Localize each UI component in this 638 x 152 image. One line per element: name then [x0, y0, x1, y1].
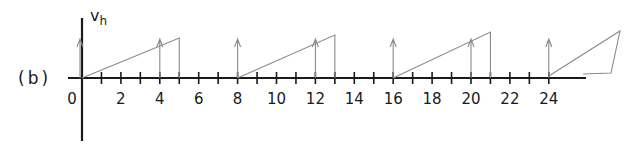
panel-label: (b) — [18, 68, 51, 88]
ramp-segment — [238, 35, 335, 78]
x-tick-label: 20 — [461, 90, 480, 108]
x-tick-label: 4 — [155, 90, 165, 108]
x-tick-label: 16 — [384, 90, 403, 108]
x-tick-label: 2 — [116, 90, 126, 108]
impulse-arrow — [390, 39, 396, 78]
ramp-segment — [549, 31, 620, 76]
impulse-arrow — [235, 39, 241, 78]
ramp-segment — [82, 38, 179, 78]
x-tick-label: 8 — [233, 90, 243, 108]
ramp-segment — [393, 32, 490, 78]
sawtooth-waveform — [77, 31, 620, 78]
x-tick-label: 12 — [306, 90, 325, 108]
x-tick-label: 10 — [267, 90, 286, 108]
x-tick-label: 24 — [539, 90, 558, 108]
impulse-arrow — [468, 39, 474, 78]
origin-label: 0 — [67, 90, 77, 108]
x-tick-label: 22 — [500, 90, 519, 108]
x-tick-label: 14 — [345, 90, 364, 108]
x-tick-label: 6 — [194, 90, 204, 108]
x-tick-label: 18 — [423, 90, 442, 108]
y-axis-label: vh — [90, 6, 107, 28]
impulse-arrow — [546, 39, 552, 78]
